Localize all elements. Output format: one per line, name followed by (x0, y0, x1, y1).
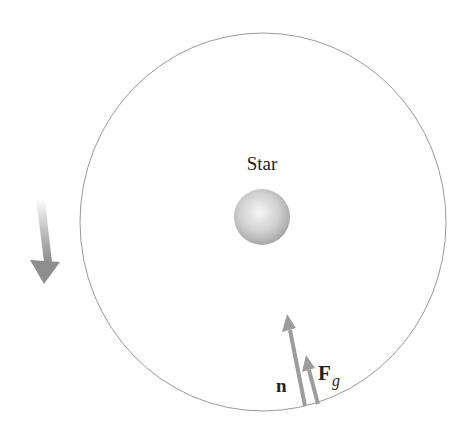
normal-force-label: n (276, 375, 287, 396)
star-sphere (234, 189, 290, 245)
gravity-force-subscript: g (332, 372, 340, 390)
rotation-arrow-icon (30, 198, 60, 284)
star-label: Star (247, 153, 278, 174)
gravity-force-label: F (318, 361, 331, 385)
diagram-canvas: Star n F g (0, 0, 471, 425)
